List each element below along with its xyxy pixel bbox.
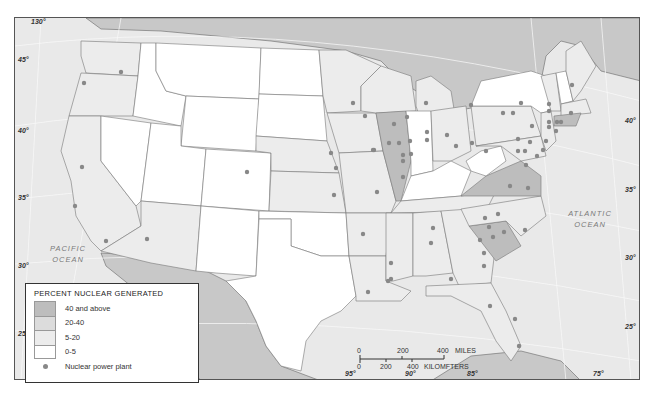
longitude-label: 75° <box>593 370 604 377</box>
legend-swatch <box>34 301 56 316</box>
scale-miles-tick: 400 <box>437 347 449 354</box>
scale-km-tick: 400 <box>407 363 419 370</box>
legend-item: 5-20 <box>34 330 190 345</box>
legend-label: Nuclear power plant <box>65 362 132 371</box>
latitude-label-right: 35° <box>625 186 636 193</box>
legend-items: 40 and above 20-40 5-20 0-5 Nuclear powe… <box>34 301 190 374</box>
scale-bar: 0 200 400 MILES 0 200 400 KILOMFTERS <box>352 345 512 375</box>
legend-item: 40 and above <box>34 301 190 316</box>
longitude-label-top: 130° <box>31 18 45 25</box>
latitude-label-left: 40° <box>18 127 29 134</box>
scale-miles-label: MILES <box>455 347 476 354</box>
scale-miles-tick: 200 <box>397 347 409 354</box>
legend-label: 0-5 <box>65 347 76 356</box>
latitude-label-right: 40° <box>625 117 636 124</box>
legend-item: 20-40 <box>34 316 190 331</box>
scale-miles-tick: 0 <box>357 347 361 354</box>
latitude-label-right: 25° <box>625 323 636 330</box>
legend-swatch <box>34 345 56 360</box>
legend-label: 5-20 <box>65 333 80 342</box>
pacific-ocean-label: PACIFIC OCEAN <box>43 243 93 265</box>
scale-km-label: KILOMFTERS <box>424 363 469 370</box>
latitude-label-left: 35° <box>18 194 29 201</box>
latitude-label-left: 30° <box>18 262 29 269</box>
scale-bar-line <box>352 345 512 375</box>
latitude-label-left: 45° <box>18 56 29 63</box>
legend-label: 40 and above <box>65 304 110 313</box>
latitude-label-right: 30° <box>625 254 636 261</box>
legend-swatch <box>34 316 56 331</box>
plant-dot-icon <box>34 359 56 373</box>
scale-km-tick: 200 <box>380 363 392 370</box>
legend-item: 0-5 <box>34 345 190 360</box>
map-legend: PERCENT NUCLEAR GENERATED 40 and above 2… <box>25 283 199 383</box>
legend-swatch <box>34 330 56 345</box>
scale-km-tick: 0 <box>357 363 361 370</box>
legend-item: Nuclear power plant <box>34 359 190 374</box>
legend-title: PERCENT NUCLEAR GENERATED <box>34 289 190 298</box>
legend-label: 20-40 <box>65 318 84 327</box>
atlantic-ocean-label: ATLANTIC OCEAN <box>560 208 620 230</box>
